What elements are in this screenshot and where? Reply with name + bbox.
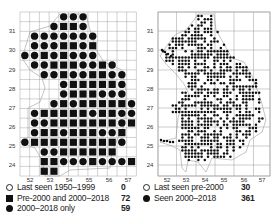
filled-square-marker xyxy=(41,52,48,59)
filled-circle-marker xyxy=(216,72,219,75)
y-tick-label: 26 xyxy=(9,124,16,130)
filled-circle-marker xyxy=(210,120,213,123)
filled-circle-marker xyxy=(239,92,242,95)
filled-square-marker xyxy=(50,168,57,175)
filled-circle-marker xyxy=(200,15,203,18)
filled-circle-marker xyxy=(50,100,57,107)
filled-circle-marker xyxy=(99,129,106,136)
filled-circle-marker xyxy=(210,117,213,120)
legend-count: 30 xyxy=(241,182,250,193)
filled-circle-marker xyxy=(229,111,232,114)
filled-circle-marker xyxy=(197,47,200,50)
filled-circle-marker xyxy=(172,141,175,144)
filled-circle-marker xyxy=(213,133,216,136)
filled-circle-marker xyxy=(184,149,187,152)
filled-circle-marker xyxy=(213,72,216,75)
filled-square-marker xyxy=(128,119,135,126)
filled-circle-marker xyxy=(197,127,200,130)
filled-circle-marker xyxy=(245,66,248,69)
filled-circle-marker xyxy=(181,101,184,104)
filled-circle-marker xyxy=(223,92,226,95)
filled-circle-marker xyxy=(204,140,207,143)
filled-circle-marker xyxy=(204,133,207,136)
filled-circle-marker xyxy=(204,120,207,123)
filled-circle-marker xyxy=(197,111,200,114)
filled-circle-marker xyxy=(207,152,210,155)
filled-circle-marker xyxy=(242,98,245,101)
filled-circle-marker xyxy=(248,88,251,91)
filled-circle-marker xyxy=(216,136,219,139)
y-tick-label: 31 xyxy=(9,28,16,34)
filled-circle-marker xyxy=(226,56,229,59)
filled-circle-marker xyxy=(242,92,245,95)
filled-circle-marker xyxy=(236,98,239,101)
filled-circle-marker xyxy=(194,66,197,69)
filled-circle-marker xyxy=(229,76,232,79)
filled-circle-marker xyxy=(258,108,261,111)
filled-circle-marker xyxy=(204,136,207,139)
filled-circle-marker xyxy=(248,92,251,95)
filled-circle-marker xyxy=(239,117,242,120)
filled-circle-marker xyxy=(188,130,191,133)
filled-square-icon xyxy=(6,195,13,202)
y-tick-label: 27 xyxy=(147,105,154,111)
filled-circle-marker xyxy=(181,140,184,143)
filled-square-marker xyxy=(50,61,57,68)
filled-circle-marker xyxy=(210,34,213,37)
filled-circle-marker xyxy=(216,104,219,107)
filled-circle-marker xyxy=(118,110,125,117)
filled-circle-marker xyxy=(232,127,235,130)
filled-circle-marker xyxy=(223,82,226,85)
filled-circle-marker xyxy=(175,44,178,47)
filled-circle-marker xyxy=(207,124,210,127)
filled-circle-marker xyxy=(204,159,207,162)
filled-circle-marker xyxy=(194,149,197,152)
filled-circle-marker xyxy=(191,34,194,37)
filled-square-marker xyxy=(89,119,96,126)
filled-circle-marker xyxy=(191,130,194,133)
legend-item-2000-2018-only: 2000–2018 only 59 xyxy=(6,203,136,214)
filled-circle-marker xyxy=(204,47,207,50)
filled-square-marker xyxy=(60,148,67,155)
filled-circle-marker xyxy=(207,31,210,34)
y-tick-label: 29 xyxy=(9,67,16,73)
right-map-legend: Last seen pre-2000 30 Seen 2000–2018 361 xyxy=(143,182,273,203)
filled-circle-marker xyxy=(79,71,86,78)
filled-circle-marker xyxy=(194,143,197,146)
filled-circle-marker xyxy=(207,92,210,95)
filled-circle-marker xyxy=(239,85,242,88)
legend-item-pre-2000-and-2000-2018: Pre-2000 and 2000–2018 72 xyxy=(6,193,136,204)
filled-circle-marker xyxy=(207,111,210,114)
filled-circle-marker xyxy=(213,156,216,159)
filled-circle-marker xyxy=(118,119,125,126)
filled-circle-marker xyxy=(223,108,226,111)
filled-circle-marker xyxy=(184,50,187,53)
filled-circle-marker xyxy=(229,101,232,104)
filled-square-marker xyxy=(70,61,77,68)
filled-circle-marker xyxy=(232,88,235,91)
filled-circle-marker xyxy=(181,37,184,40)
filled-circle-marker xyxy=(181,127,184,130)
filled-circle-marker xyxy=(204,98,207,101)
filled-square-marker xyxy=(109,110,116,117)
filled-circle-marker xyxy=(197,15,200,18)
filled-circle-marker xyxy=(232,72,235,75)
filled-square-marker xyxy=(60,61,67,68)
filled-circle-marker xyxy=(216,98,219,101)
filled-circle-marker xyxy=(245,69,248,72)
filled-circle-marker xyxy=(242,143,245,146)
filled-circle-marker xyxy=(194,37,197,40)
filled-square-marker xyxy=(99,148,106,155)
filled-circle-marker xyxy=(223,88,226,91)
filled-circle-marker xyxy=(245,114,248,117)
open-circle-icon xyxy=(143,184,150,191)
filled-circle-marker xyxy=(184,156,187,159)
filled-circle-marker xyxy=(50,23,57,30)
filled-circle-marker xyxy=(184,120,187,123)
filled-circle-marker xyxy=(204,28,207,31)
filled-circle-marker xyxy=(184,133,187,136)
filled-circle-marker xyxy=(229,92,232,95)
filled-circle-marker xyxy=(188,95,191,98)
filled-circle-marker xyxy=(223,56,226,59)
filled-circle-marker xyxy=(41,71,48,78)
